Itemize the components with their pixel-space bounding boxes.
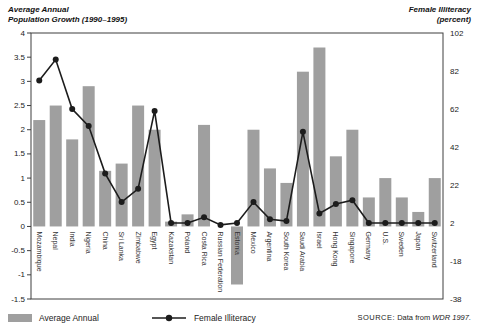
category-label-hong-kong: Hong Kong [331,231,339,266]
right-axis-tick-label: 22 [450,181,459,190]
category-label-japan: Japan [414,231,422,250]
point-nepal [53,57,59,63]
point-japan [415,220,421,226]
line-series-label: Female Illiteracy [194,313,256,323]
point-india [69,106,75,112]
bar-nepal [50,106,62,227]
category-label-saudi-arabia: Saudi Arabia [299,231,306,271]
point-poland [185,220,191,226]
category-label-kazakstan: Kazakstan [168,231,175,264]
category-label-mexico: Mexico [250,231,257,253]
point-estonia [234,220,240,226]
left-axis-tick-label: 4 [21,29,26,38]
left-axis-tick-label: -1 [18,270,26,279]
source-citation: WDR 1997. [432,313,471,322]
point-costa-rica [201,214,207,220]
bar-series-label: Average Annual [39,313,99,323]
bar-series-swatch [8,314,32,322]
category-label-singapore: Singapore [348,231,356,263]
point-zimbabwe [135,186,141,192]
category-label-argentina: Argentina [265,231,273,261]
left-axis-tick-label: 1.5 [14,149,26,158]
population-growth-illiteracy-chart: Average Annual Population Growth (1990–1… [0,0,477,327]
left-axis-tick-label: 2.5 [14,101,26,110]
left-axis-tick-label: 0 [21,222,26,231]
category-label-india: India [69,231,76,246]
source-note: SOURCE: Data from WDR 1997. [357,313,471,322]
category-label-sri-lanka: Sri Lanka [118,231,125,261]
right-axis-tick-label: -38 [450,295,462,304]
left-axis-tick-label: 1 [21,174,26,183]
category-label-sweden: Sweden [398,231,405,256]
right-axis-tick-label: 82 [450,67,459,76]
category-label-costa-rica: Costa Rica [201,231,208,265]
category-label-zimbabwe: Zimbabwe [135,231,142,263]
left-axis-tick-label: 3.5 [14,53,26,62]
left-axis-tick-label: 0.5 [14,198,26,207]
bar-mexico [247,130,259,227]
right-axis-tick-label: 2 [450,219,455,228]
left-axis-tick-label: -0.5 [11,246,25,255]
category-label-germany: Germany [364,231,372,260]
category-label-nepal: Nepal [51,231,59,250]
category-label-u-s: U.S. [382,231,389,245]
right-axis-tick-label: 62 [450,105,459,114]
bar-switzerland [429,178,441,226]
bar-costa-rica [198,125,210,227]
plot-area: 43.532.521.510.50-0.5-1-1.5102826242222-… [0,0,477,327]
bar-israel [313,48,325,227]
bar-hong-kong [330,156,342,226]
point-sri-lanka [119,199,125,205]
point-south-korea [283,218,289,224]
category-label-russian-federation: Russian Federation [217,231,224,292]
bar-mozambique [33,120,45,226]
category-label-nigeria: Nigeria [84,231,92,253]
point-russian-federation [218,222,224,228]
point-argentina [267,216,273,222]
category-label-switzerland: Switzerland [431,231,438,267]
bar-singapore [346,130,358,227]
right-axis-tick-label: 42 [450,143,459,152]
point-egypt [152,108,158,114]
category-label-mozambique: Mozambique [35,231,43,271]
right-axis-tick-label: -18 [450,257,462,266]
point-saudi-arabia [300,129,306,135]
left-axis-tick-label: -1.5 [11,295,25,304]
category-label-china: China [102,231,109,249]
bar-china [99,171,111,227]
point-nigeria [86,123,92,129]
point-germany [366,220,372,226]
category-label-poland: Poland [184,231,191,253]
legend: Average Annual Female Illiteracy [8,312,256,324]
category-label-estonia: Estonia [234,231,241,254]
point-kazakstan [168,220,174,226]
illiteracy-line [39,60,435,225]
point-u-s [382,220,388,226]
left-axis-tick-label: 2 [21,125,26,134]
category-label-south-korea: South Korea [283,231,290,270]
right-axis-tick-label: 102 [450,29,464,38]
point-mexico [250,199,256,205]
line-series-marker-icon [151,313,187,323]
point-hong-kong [333,201,339,207]
point-sweden [399,220,405,226]
category-label-israel: Israel [316,231,323,249]
source-prefix: SOURCE: [357,313,395,322]
point-israel [316,211,322,217]
point-switzerland [432,220,438,226]
source-text: Data from [397,313,430,322]
point-china [102,171,108,177]
point-mozambique [36,78,42,84]
point-singapore [349,197,355,203]
bar-india [66,139,78,226]
bar-nigeria [83,86,95,226]
category-label-egypt: Egypt [150,231,158,249]
left-axis-tick-label: 3 [21,77,26,86]
bar-u-s [379,178,391,226]
